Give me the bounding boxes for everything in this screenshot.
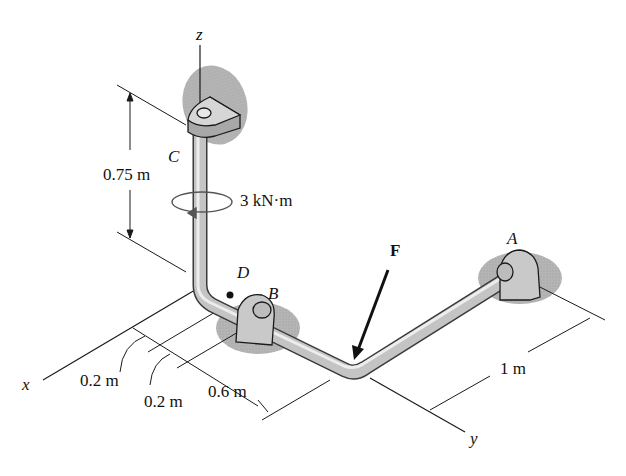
x-axis-label: x [22,376,30,393]
y-axis [370,378,465,432]
x-axis [43,290,195,380]
statics-diagram: z x y C D B A F 3 kN·m 0.75 m 0.2 m 0.2 … [0,0,626,476]
dimension-height-label: 0.75 m [103,166,150,183]
point-C-label: C [168,148,179,165]
couple-moment-label: 3 kN·m [240,192,292,209]
point-D-marker [227,292,234,299]
z-axis-label: z [196,26,203,43]
force-F-label: F [390,242,400,259]
dimension-x1-label: 0.2 m [80,372,119,389]
dimension-x2-label: 0.2 m [144,393,183,410]
diagram-canvas [0,0,626,476]
y-axis-label: y [470,430,478,447]
dimension-x3-label: 0.6 m [208,383,247,400]
point-B-label: B [268,285,278,302]
dimension-y1-label: 1 m [500,360,526,377]
point-A-label: A [507,230,517,247]
point-D-label: D [237,264,249,281]
force-F-arrow [352,270,388,360]
